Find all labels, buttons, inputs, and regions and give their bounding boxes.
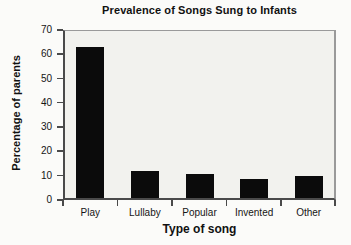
- bar-invented: [240, 179, 268, 198]
- category-label-play: Play: [63, 207, 118, 218]
- y-tick-mark: [57, 150, 63, 152]
- bar-lullaby: [131, 171, 159, 198]
- bar-play: [76, 47, 104, 198]
- x-tick-mark: [62, 200, 64, 206]
- bar-chart-figure: Prevalence of Songs Sung to Infants Perc…: [0, 0, 351, 245]
- category-label-popular: Popular: [172, 207, 227, 218]
- x-tick-mark: [171, 200, 173, 206]
- y-tick-label-70: 70: [22, 24, 52, 35]
- plot-area: [63, 30, 336, 200]
- x-tick-mark: [117, 200, 119, 206]
- y-axis-title: Percentage of parents: [10, 28, 22, 198]
- category-label-invented: Invented: [227, 207, 282, 218]
- y-tick-label-10: 10: [22, 170, 52, 181]
- y-tick-mark: [57, 53, 63, 55]
- y-tick-label-30: 30: [22, 121, 52, 132]
- y-tick-label-0: 0: [22, 194, 52, 205]
- y-tick-mark: [57, 175, 63, 177]
- y-tick-mark: [57, 29, 63, 31]
- bar-other: [295, 176, 323, 198]
- y-tick-mark: [57, 78, 63, 80]
- bar-popular: [186, 174, 214, 198]
- y-tick-label-20: 20: [22, 145, 52, 156]
- chart-title: Prevalence of Songs Sung to Infants: [63, 4, 336, 16]
- y-tick-mark: [57, 126, 63, 128]
- category-label-lullaby: Lullaby: [118, 207, 173, 218]
- x-tick-mark: [226, 200, 228, 206]
- y-tick-label-40: 40: [22, 97, 52, 108]
- x-tick-mark: [280, 200, 282, 206]
- x-tick-mark: [334, 200, 336, 206]
- y-tick-label-60: 60: [22, 48, 52, 59]
- y-tick-label-50: 50: [22, 73, 52, 84]
- x-axis-title: Type of song: [63, 222, 336, 236]
- y-tick-mark: [57, 102, 63, 104]
- category-label-other: Other: [281, 207, 336, 218]
